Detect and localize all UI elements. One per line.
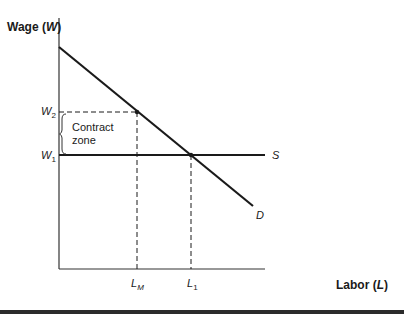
contract-zone-brace (60, 114, 67, 154)
w2-label: W2 (41, 106, 56, 120)
point-w2-lm (135, 110, 139, 114)
lm-label: LM (131, 278, 144, 292)
x-axis-label: Labor (L) (336, 279, 388, 291)
w1-label: W1 (41, 150, 56, 164)
l1-label: L1 (187, 278, 198, 292)
contract-zone-label-line2: zone (72, 135, 96, 146)
y-axis-label: Wage (W) (7, 21, 61, 33)
bottom-bar (0, 310, 404, 314)
diagram-canvas (0, 0, 404, 314)
demand-label: D (256, 210, 264, 221)
contract-zone-label-line1: Contract (72, 122, 114, 133)
supply-label: S (272, 150, 279, 161)
point-w1-l1 (189, 153, 193, 157)
